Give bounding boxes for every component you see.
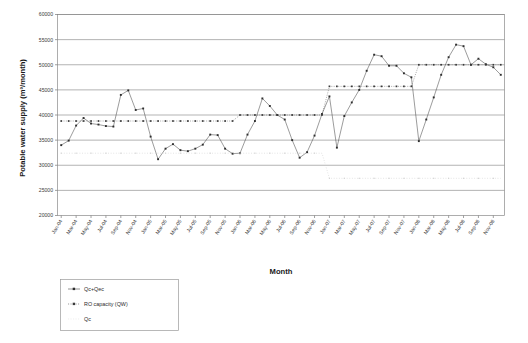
- data-point: [165, 153, 166, 154]
- data-point: [120, 94, 122, 96]
- y-tick-label: 35000: [39, 137, 53, 143]
- data-point: [232, 120, 234, 122]
- chart-svg: Potable water supply (m³/month) 20000250…: [0, 0, 528, 343]
- data-point: [217, 134, 219, 136]
- data-point: [180, 120, 182, 122]
- data-point: [478, 64, 480, 66]
- data-point: [493, 178, 494, 179]
- y-tick-label: 40000: [39, 112, 53, 118]
- x-tick-label: Sep-07: [377, 218, 391, 235]
- y-tick-label: 50000: [39, 62, 53, 68]
- x-tick-label: May-05: [169, 218, 183, 236]
- data-point: [291, 114, 293, 116]
- legend-swatch-marker-qc-qec: [73, 288, 75, 290]
- data-point: [358, 89, 360, 91]
- data-point: [329, 178, 330, 179]
- data-point: [470, 64, 472, 66]
- x-tick-label: Sep-06: [288, 218, 302, 235]
- data-point: [403, 72, 405, 74]
- data-point: [76, 153, 77, 154]
- data-point: [381, 86, 383, 88]
- series-polyline: [61, 153, 501, 178]
- data-point: [329, 86, 331, 88]
- data-point: [344, 178, 345, 179]
- data-point: [254, 153, 255, 154]
- data-point: [358, 86, 360, 88]
- data-point: [351, 86, 353, 88]
- data-point: [396, 65, 398, 67]
- data-point: [336, 147, 338, 149]
- data-point: [75, 120, 77, 122]
- data-point: [276, 114, 278, 116]
- x-tick-label: Sep-05: [199, 218, 213, 235]
- data-point: [75, 125, 77, 127]
- data-point: [83, 120, 85, 122]
- data-point: [485, 64, 487, 66]
- data-point: [202, 144, 204, 146]
- data-point: [463, 178, 464, 179]
- data-point: [239, 114, 241, 116]
- data-point: [127, 120, 129, 122]
- x-tick-label: Jul-05: [185, 218, 198, 233]
- x-tick-label: Mar-04: [65, 218, 79, 235]
- y-tick-label: 55000: [39, 37, 53, 43]
- data-point: [105, 120, 107, 122]
- data-point: [112, 126, 114, 128]
- y-tick-label: 20000: [39, 212, 53, 218]
- data-point: [90, 153, 91, 154]
- y-tick-label: 25000: [39, 187, 53, 193]
- y-tick-label: 30000: [39, 162, 53, 168]
- data-point: [194, 120, 196, 122]
- data-point: [157, 120, 159, 122]
- data-point: [455, 64, 457, 66]
- data-point: [359, 178, 360, 179]
- data-point: [299, 153, 300, 154]
- data-point: [291, 139, 293, 141]
- legend-label-ro-capacity: RO capacity (QW): [84, 301, 128, 307]
- data-point: [299, 157, 301, 159]
- x-tick-label: Nov-07: [392, 218, 406, 235]
- data-point: [284, 119, 286, 121]
- x-tick-label: May-08: [437, 218, 451, 236]
- x-tick-label: Mar-07: [333, 218, 347, 235]
- x-tick-label: Jul-08: [453, 218, 466, 233]
- data-point: [336, 86, 338, 88]
- x-tick-label: Jan-08: [408, 218, 421, 235]
- data-point: [225, 153, 226, 154]
- data-point: [187, 120, 189, 122]
- data-point: [165, 120, 167, 122]
- data-point: [351, 101, 353, 103]
- x-tick-label: Nov-06: [303, 218, 317, 235]
- data-point: [210, 153, 211, 154]
- data-point: [463, 64, 465, 66]
- x-tick-label: Jan-07: [318, 218, 331, 235]
- data-point: [418, 178, 419, 179]
- data-point: [478, 178, 479, 179]
- data-point: [60, 120, 62, 122]
- x-tick-label: Mar-08: [422, 218, 436, 235]
- data-point: [418, 64, 420, 66]
- data-point: [209, 134, 211, 136]
- y-tick-label: 60000: [39, 11, 53, 17]
- data-point: [90, 120, 92, 122]
- data-point: [448, 56, 450, 58]
- x-tick-label: Nov-05: [214, 218, 228, 235]
- data-point: [224, 120, 226, 122]
- series-qc-qec: [60, 44, 501, 160]
- series-polyline: [61, 45, 501, 160]
- legend-label-qc-qec: Qc+Qec: [84, 286, 104, 292]
- y-tick-label: 45000: [39, 87, 53, 93]
- data-point: [195, 153, 196, 154]
- x-tick-label: Jul-06: [275, 218, 288, 233]
- data-point: [187, 150, 189, 152]
- data-point: [433, 64, 435, 66]
- gridlines-group: [58, 15, 505, 191]
- data-point: [209, 120, 211, 122]
- data-point: [328, 95, 330, 97]
- data-point: [381, 55, 383, 57]
- x-tick-label: May-04: [79, 218, 93, 236]
- x-tick-label: May-06: [258, 218, 272, 236]
- y-axis-title-group: Potable water supply (m³/month): [18, 59, 27, 177]
- data-point: [343, 86, 345, 88]
- x-tick-label: Sep-04: [109, 218, 123, 235]
